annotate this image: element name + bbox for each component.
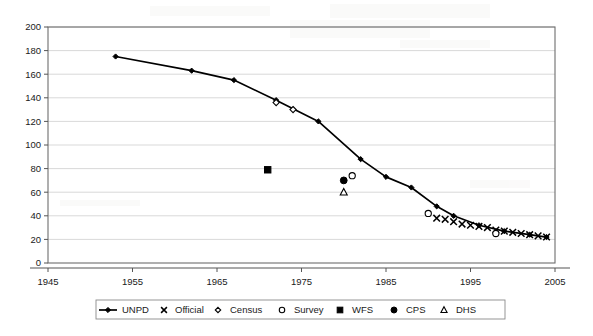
y-tick-label: 100 [25,139,41,150]
y-tick-label: 140 [25,92,41,103]
legend-label: CPS [406,304,426,315]
x-tick-label: 1955 [122,276,143,287]
y-tick-label: 40 [30,210,41,221]
series-census [273,99,296,112]
plot-area [113,54,550,240]
legend-label: Official [175,304,204,315]
legend-label: Survey [294,304,324,315]
x-tick-label: 1965 [206,276,227,287]
x-tick-label: 1985 [375,276,396,287]
y-tick-label: 60 [30,187,41,198]
y-tick-label: 20 [30,234,41,245]
legend-marker-filled-circle [391,307,397,313]
series-cps [340,177,347,184]
x-tick-label: 1975 [291,276,312,287]
legend-label: DHS [456,304,476,315]
y-tick-label: 80 [30,163,41,174]
legend-marker-filled-square [337,307,343,313]
legend: UNPDOfficialCensusSurveyWFSCPSDHS [96,300,505,319]
y-tick-label: 200 [25,21,41,32]
y-axis: 020406080100120140160180200 [25,21,48,268]
x-tick-label: 1995 [460,276,481,287]
y-tick-label: 0 [36,257,41,268]
series-wfs [265,167,271,173]
y-tick-label: 120 [25,116,41,127]
x-tick-label: 2005 [544,276,565,287]
x-tick-label: 1945 [37,276,58,287]
x-axis: 1945195519651975198519952005 [30,268,570,287]
legend-marker-open-circle [279,307,284,312]
legend-label: UNPD [122,304,149,315]
scan-artifacts [60,4,530,306]
series-dhs [340,188,347,195]
legend-label: Census [230,304,262,315]
chart-figure: 0204060801001201401601802001945195519651… [0,0,593,336]
y-tick-label: 160 [25,69,41,80]
series-unpd [113,54,549,240]
y-tick-label: 180 [25,45,41,56]
legend-label: WFS [352,304,373,315]
